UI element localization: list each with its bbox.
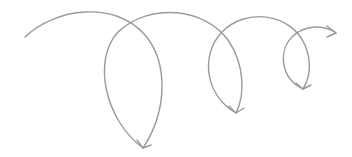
arrowhead-4-icon (327, 26, 336, 37)
arc-1 (25, 12, 162, 148)
arc-3 (208, 17, 309, 113)
looping-arrow-graphic (0, 0, 352, 157)
spiral-arrow-icon (0, 0, 352, 157)
